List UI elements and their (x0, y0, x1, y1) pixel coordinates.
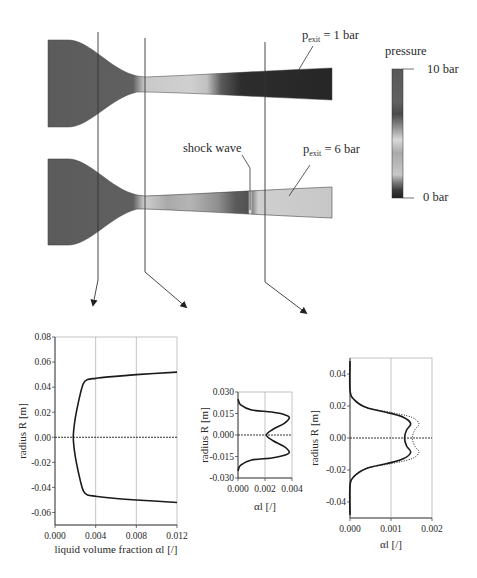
y-tick-label: -0.04 (326, 497, 346, 507)
y-tick-label: 0.00 (34, 433, 51, 443)
y-tick-label: 0.015 (213, 409, 235, 419)
x-tick-label: 0.002 (254, 484, 276, 494)
x-tick-label: 0.002 (421, 524, 443, 534)
y-tick-label: -0.04 (31, 483, 51, 493)
nozzle-1-pexit-1bar (48, 40, 332, 127)
pressure-colorbar: pressure 10 bar 0 bar (385, 44, 459, 204)
colorbar-max-label: 10 bar (427, 62, 459, 76)
y-tick-label: -0.06 (31, 508, 51, 518)
x-tick-label: 0.000 (339, 524, 361, 534)
x-tick-label: 0.000 (44, 531, 66, 541)
x-tick-label: 0.008 (126, 531, 148, 541)
x-axis-title: αl [/] (254, 500, 276, 512)
svg-text:pexit = 1 bar: pexit = 1 bar (302, 28, 360, 44)
x-tick-label: 0.012 (166, 531, 188, 541)
y-tick-label: 0.02 (329, 401, 346, 411)
y-tick-label: 0.00 (329, 433, 346, 443)
y-tick-label: 0.04 (34, 382, 51, 392)
y-tick-label: 0.06 (34, 357, 51, 367)
y-tick-label: -0.015 (209, 452, 234, 462)
y-tick-label: -0.02 (31, 458, 51, 468)
colorbar-min-label: 0 bar (423, 190, 449, 204)
figure-canvas: pexit = 1 bar pexit = 6 bar shock wave p… (0, 0, 477, 578)
svg-text:pressure: pressure (385, 44, 427, 58)
plot-1: 0.0000.0040.0080.0120.080.060.040.020.00… (16, 332, 188, 555)
y-axis-title: radius R [m] (198, 407, 210, 463)
x-axis-title: αl [/] (380, 538, 402, 550)
y-axis-title: radius R [m] (308, 410, 320, 466)
plot-2: 0.0000.0020.0040.0300.0150.000-0.015-0.0… (198, 387, 303, 512)
y-tick-label: 0.000 (213, 430, 235, 440)
x-tick-label: 0.004 (281, 484, 303, 494)
svg-text:pexit = 6 bar: pexit = 6 bar (303, 142, 361, 158)
nozzle-2-pexit-6bar (48, 159, 332, 245)
y-tick-label: 0.04 (329, 369, 346, 379)
y-tick-label: -0.02 (326, 465, 346, 475)
y-tick-label: 0.030 (213, 387, 235, 397)
y-tick-label: 0.08 (34, 332, 51, 342)
y-axis-title: radius R [m] (16, 403, 28, 459)
x-tick-label: 0.004 (85, 531, 107, 541)
x-tick-label: 0.001 (380, 524, 402, 534)
radial-profile-plots: 0.0000.0040.0080.0120.080.060.040.020.00… (16, 332, 443, 555)
plot-3: 0.0000.0010.0020.040.020.00-0.02-0.04rad… (308, 358, 443, 550)
x-tick-label: 0.000 (227, 484, 249, 494)
y-tick-label: 0.02 (34, 408, 51, 418)
y-tick-label: -0.030 (209, 473, 234, 483)
x-axis-title: liquid volume fraction αl [/] (54, 543, 177, 555)
svg-text:shock wave: shock wave (183, 141, 242, 155)
